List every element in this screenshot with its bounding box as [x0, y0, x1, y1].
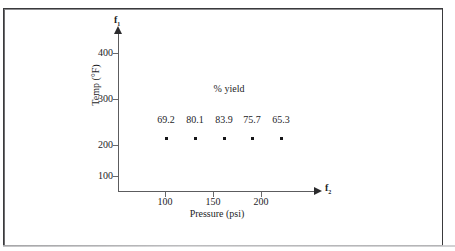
y-axis-tick-label-text: 100	[87, 170, 113, 181]
figure-page: f1 f2 400300200100 100150200 Temp (°F) P…	[0, 0, 455, 251]
y-axis-line	[118, 33, 119, 192]
y-axis-tick	[113, 145, 118, 146]
x-axis-factor-subscript: 2	[328, 189, 331, 195]
y-axis-tick	[113, 53, 118, 54]
y-axis-tick	[113, 99, 118, 100]
y-axis-tick-label: 200	[83, 139, 113, 151]
x-axis-title: Pressure (psi)	[152, 208, 282, 219]
y-axis-factor-label: f1	[114, 14, 120, 27]
x-axis-tick-label: 100	[148, 196, 182, 207]
x-axis-line	[118, 191, 316, 192]
scatter-plot: f1 f2 400300200100 100150200 Temp (°F) P…	[0, 0, 455, 251]
x-axis-tick-label: 150	[196, 196, 230, 207]
data-point	[280, 137, 283, 140]
y-axis-title: Temp (°F)	[90, 50, 104, 120]
data-point	[165, 137, 168, 140]
x-axis-tick-label: 200	[244, 196, 278, 207]
data-point	[194, 137, 197, 140]
data-point-label: 65.3	[264, 114, 298, 125]
series-annotation-label: % yield	[194, 83, 264, 94]
data-point	[223, 137, 226, 140]
y-axis-tick-label: 100	[83, 170, 113, 182]
x-axis-arrow-icon	[314, 187, 322, 195]
y-axis-tick	[113, 176, 118, 177]
y-axis-tick-label-text: 200	[87, 139, 113, 150]
x-axis-factor-label: f2	[325, 182, 331, 195]
y-axis-factor-subscript: 1	[117, 21, 120, 27]
y-axis-arrow-icon	[114, 26, 122, 34]
data-point	[251, 137, 254, 140]
